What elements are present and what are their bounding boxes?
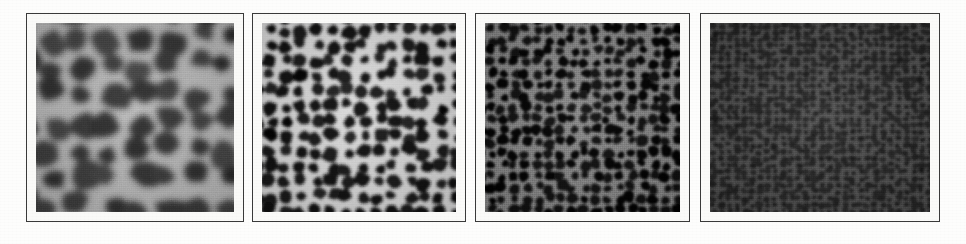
micrograph-panel-3[interactable]: [475, 13, 690, 222]
micrograph-image-4: [710, 23, 930, 212]
micrograph-image-1: [36, 23, 234, 212]
micrograph-image-3: [485, 23, 680, 212]
micrograph-panel-2[interactable]: [252, 13, 466, 222]
micrograph-image-2: [262, 23, 456, 212]
micrograph-panel-1[interactable]: [26, 13, 244, 222]
micrograph-panel-4[interactable]: [700, 13, 940, 222]
figure-sheet: [0, 0, 966, 244]
